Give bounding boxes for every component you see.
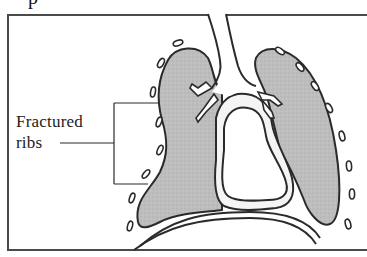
rib	[338, 130, 346, 141]
rib	[128, 192, 136, 203]
rib	[155, 116, 163, 127]
rib	[150, 87, 156, 98]
rib	[156, 144, 165, 155]
fractured-ribs-label-line2: ribs	[16, 133, 42, 153]
rib	[172, 39, 183, 47]
rib	[141, 169, 151, 180]
rib	[349, 189, 354, 199]
rib	[126, 221, 133, 232]
fractured-ribs-label-line1: Fractured	[16, 112, 83, 132]
diaphragm-lower	[134, 218, 316, 250]
rib	[346, 161, 352, 171]
rib	[344, 218, 352, 229]
left-lung	[137, 48, 222, 227]
